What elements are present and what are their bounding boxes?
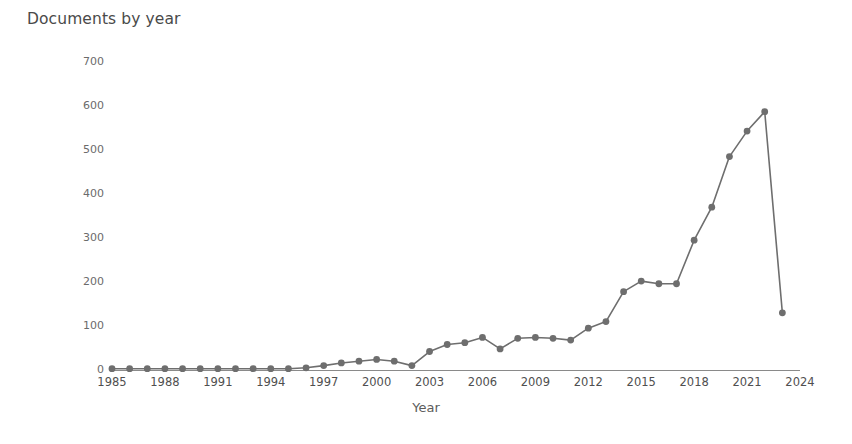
data-point bbox=[479, 334, 486, 341]
data-point bbox=[391, 358, 398, 365]
data-point bbox=[179, 365, 186, 372]
y-tick-label: 400 bbox=[83, 187, 104, 200]
x-tick-label: 2000 bbox=[362, 375, 391, 389]
data-point bbox=[726, 153, 733, 160]
data-point bbox=[550, 335, 557, 342]
data-point bbox=[267, 365, 274, 372]
x-tick-label: 2003 bbox=[415, 375, 444, 389]
data-point bbox=[250, 365, 257, 372]
x-tick-label: 2012 bbox=[574, 375, 603, 389]
data-point bbox=[744, 128, 751, 135]
data-point bbox=[356, 358, 363, 365]
plot-area: 7006005004003002001000 19851988199119941… bbox=[0, 0, 852, 444]
x-tick-label: 2021 bbox=[732, 375, 761, 389]
x-tick-label: 1991 bbox=[203, 375, 232, 389]
x-tick-label: 1994 bbox=[256, 375, 285, 389]
data-point bbox=[638, 278, 645, 285]
data-point bbox=[497, 345, 504, 352]
data-point bbox=[320, 362, 327, 369]
data-point bbox=[708, 204, 715, 211]
data-point bbox=[232, 365, 239, 372]
x-tick-label: 2006 bbox=[468, 375, 497, 389]
data-point bbox=[567, 337, 574, 344]
data-point bbox=[444, 341, 451, 348]
y-tick-label: 300 bbox=[83, 231, 104, 244]
data-point bbox=[214, 365, 221, 372]
y-tick-label: 700 bbox=[83, 55, 104, 68]
documents-series-markers bbox=[109, 108, 786, 372]
data-point bbox=[426, 348, 433, 355]
documents-series-line bbox=[112, 112, 782, 369]
data-point bbox=[338, 360, 345, 367]
y-tick-label: 200 bbox=[83, 275, 104, 288]
data-point bbox=[126, 365, 133, 372]
data-point bbox=[109, 365, 116, 372]
x-tick-label: 2015 bbox=[627, 375, 656, 389]
data-point bbox=[761, 108, 768, 115]
x-tick-label: 2009 bbox=[521, 375, 550, 389]
data-point bbox=[409, 362, 416, 369]
x-tick-label: 1997 bbox=[309, 375, 338, 389]
data-point bbox=[603, 318, 610, 325]
data-point bbox=[620, 288, 627, 295]
x-axis-tick-labels: 1985198819911994199720002003200620092012… bbox=[97, 375, 814, 389]
y-tick-label: 100 bbox=[83, 319, 104, 332]
y-tick-label: 600 bbox=[83, 99, 104, 112]
documents-by-year-chart: Documents by year Documents Year 7006005… bbox=[0, 0, 852, 444]
data-point bbox=[532, 334, 539, 341]
x-tick-label: 1988 bbox=[150, 375, 179, 389]
y-axis-tick-labels: 7006005004003002001000 bbox=[83, 55, 104, 376]
data-point bbox=[655, 280, 662, 287]
data-point bbox=[303, 364, 310, 371]
y-tick-label: 500 bbox=[83, 143, 104, 156]
data-point bbox=[779, 309, 786, 316]
data-point bbox=[461, 339, 468, 346]
data-point bbox=[285, 365, 292, 372]
x-tick-label: 1985 bbox=[97, 375, 126, 389]
data-point bbox=[514, 335, 521, 342]
data-point bbox=[673, 280, 680, 287]
data-point bbox=[162, 365, 169, 372]
data-point bbox=[197, 365, 204, 372]
data-point bbox=[585, 325, 592, 332]
data-point bbox=[144, 365, 151, 372]
data-point bbox=[373, 356, 380, 363]
data-point bbox=[691, 237, 698, 244]
x-tick-label: 2024 bbox=[785, 375, 814, 389]
x-tick-label: 2018 bbox=[680, 375, 709, 389]
